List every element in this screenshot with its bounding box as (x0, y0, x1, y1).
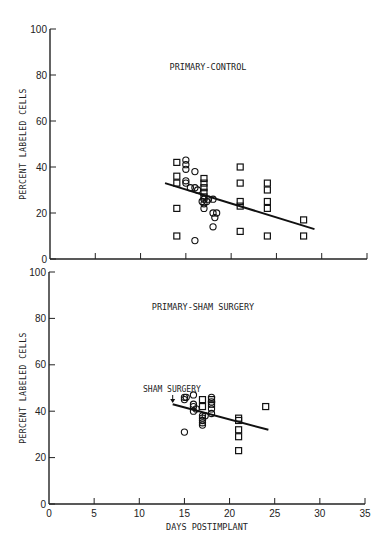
data-point-square (237, 164, 243, 170)
data-point-square (236, 434, 242, 440)
y-tick-label: 40 (36, 162, 48, 173)
data-point-square (237, 180, 243, 186)
annotation-label: SHAM SURGERY (143, 385, 201, 394)
panel-title: PRIMARY-SHAM SURGERY (152, 302, 254, 312)
data-point-square (199, 397, 205, 403)
y-tick-label: 60 (35, 359, 47, 370)
y-tick-label: 20 (36, 208, 48, 219)
y-tick-label: 0 (41, 254, 47, 265)
arrow-head-icon (170, 399, 175, 403)
x-tick-label: 30 (314, 508, 326, 519)
data-point-circle (192, 238, 198, 244)
data-point-circle (181, 429, 187, 435)
y-axis-label: PERCENT LABELED CELLS (19, 88, 28, 200)
data-point-square (264, 180, 270, 186)
data-point-circle (192, 169, 198, 175)
panel-primary-sham-surgery: 02040608010005101520253035PRIMARY-SHAM S… (19, 267, 371, 533)
regression-line (165, 183, 314, 229)
y-tick-label: 80 (36, 70, 48, 81)
data-point-square (264, 187, 270, 193)
x-tick-label: 15 (179, 508, 191, 519)
data-point-square (174, 233, 180, 239)
data-point-square (264, 205, 270, 211)
data-point-square (199, 404, 205, 410)
x-tick-label: 20 (224, 508, 236, 519)
y-tick-label: 100 (29, 267, 46, 278)
data-point-square (301, 233, 307, 239)
chart-figure: 020406080100PRIMARY-CONTROLPERCENT LABEL… (0, 0, 385, 545)
x-tick-label: 35 (359, 508, 371, 519)
y-axis-label: PERCENT LABELED CELLS (19, 332, 28, 444)
x-tick-label: 10 (134, 508, 146, 519)
y-tick-label: 100 (30, 24, 47, 35)
x-tick-label: 5 (91, 508, 97, 519)
panel-title: PRIMARY-CONTROL (170, 62, 247, 72)
data-point-square (264, 199, 270, 205)
data-point-square (174, 205, 180, 211)
x-tick-label: 25 (269, 508, 281, 519)
data-point-circle (201, 205, 207, 211)
data-point-circle (183, 166, 189, 172)
data-point-square (236, 427, 242, 433)
data-point-square (236, 448, 242, 454)
x-tick-label: 0 (46, 508, 52, 519)
data-point-square (237, 228, 243, 234)
panel-primary-control: 020406080100PRIMARY-CONTROLPERCENT LABEL… (19, 24, 367, 265)
data-point-square (263, 404, 269, 410)
data-point-circle (210, 224, 216, 230)
data-point-square (264, 233, 270, 239)
data-point-square (174, 159, 180, 165)
x-axis-label: DAYS POSTIMPLANT (166, 522, 248, 532)
data-point-circle (208, 399, 214, 405)
data-point-square (301, 217, 307, 223)
y-tick-label: 40 (35, 406, 47, 417)
y-tick-label: 60 (36, 116, 48, 127)
data-point-square (174, 173, 180, 179)
regression-line (173, 404, 269, 430)
y-tick-label: 80 (35, 313, 47, 324)
y-tick-label: 20 (35, 452, 47, 463)
